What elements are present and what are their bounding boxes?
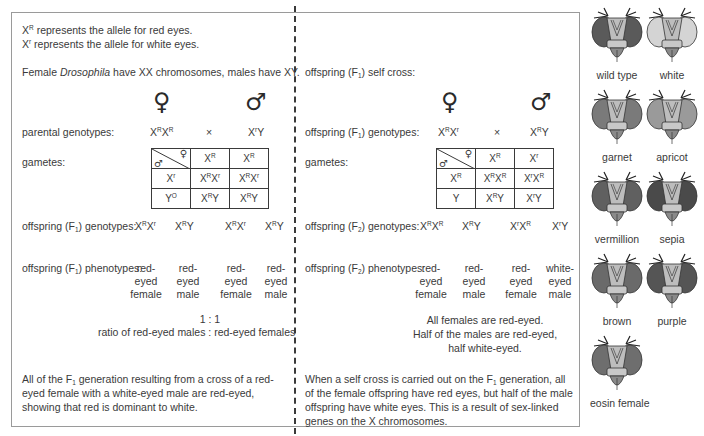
female-gamete: Xr xyxy=(515,149,554,169)
chromosome-note: Female Drosophila have XX chromosomes, m… xyxy=(22,66,300,79)
female-gamete: XR xyxy=(191,149,230,169)
f1-male-genotype: XRY xyxy=(530,126,549,139)
punnett-cell: XRY xyxy=(476,189,515,209)
punnett-square-f1: ♀ ♂ XR XR Xr XRXr XRXr YO XRY XRY xyxy=(151,148,269,209)
f2-summary: When a self cross is carried out on the … xyxy=(305,372,573,428)
fly-purple: purple xyxy=(645,252,699,327)
f2-conclusion-line: half white-eyed. xyxy=(410,342,560,355)
f2-genotypes-label: offspring (F2) genotypes: xyxy=(305,220,419,233)
fly-vermillion: vermillion xyxy=(590,170,644,245)
f2-genotype: XRY xyxy=(462,220,481,233)
fly-label: wild type xyxy=(590,69,644,81)
parental-female-genotype: XRXR xyxy=(150,126,173,139)
fly-eosin-female: eosin female xyxy=(590,334,644,409)
f1-phenotype: red- eyed male xyxy=(258,262,294,301)
fly-label: brown xyxy=(590,315,644,327)
punnett-square-f2: ♀ ♂ XR Xr XR XRXR XrXR Y XRY XrY xyxy=(436,148,554,209)
punnett-cell: XRY xyxy=(230,189,269,209)
fly-brown: brown xyxy=(590,252,644,327)
punnett-cell: XRXr xyxy=(191,169,230,189)
f1-genotype: XRXr xyxy=(135,220,156,233)
female-gamete: XR xyxy=(230,149,269,169)
f1-phenotype: red- eyed female xyxy=(128,262,164,301)
punnett-header-cell: ♀ ♂ xyxy=(152,149,191,169)
fly-sepia: sepia xyxy=(645,170,699,245)
male-gamete: XR xyxy=(437,169,476,189)
female-symbol: ♀ xyxy=(180,149,187,160)
punnett-header-cell: ♀ ♂ xyxy=(437,149,476,169)
allele-red-definition: XR represents the allele for red eyes. xyxy=(22,24,192,37)
f1-genotype: XRXr xyxy=(225,220,246,233)
f1-female-genotype: XRXr xyxy=(438,126,459,139)
fly-label: apricot xyxy=(645,151,699,163)
f2-genotype: XRXR xyxy=(420,220,443,233)
f2-phenotype: red- eyed female xyxy=(413,262,449,301)
punnett-cell: XrXR xyxy=(515,169,554,189)
gametes-label: gametes: xyxy=(22,156,65,169)
male-symbol: ♂ xyxy=(530,90,552,114)
male-symbol: ♂ xyxy=(439,158,448,169)
f1-genotypes-label: offspring (F1) genotypes: xyxy=(305,126,419,139)
fly-wild-type: wild type xyxy=(590,6,644,81)
fly-head-icon xyxy=(590,334,644,394)
fly-label: purple xyxy=(645,315,699,327)
f1-ratio: 1 : 1 xyxy=(180,313,240,326)
fly-head-icon xyxy=(590,6,644,66)
fly-head-icon xyxy=(645,170,699,230)
fly-head-icon xyxy=(645,252,699,312)
fly-label: eosin female xyxy=(590,397,644,409)
male-gamete: Y xyxy=(437,189,476,209)
cross-symbol: × xyxy=(494,126,500,139)
f1-phenotypes-label: offspring (F1) phenotypes: xyxy=(22,262,142,275)
fly-head-icon xyxy=(590,88,644,148)
male-gamete: YO xyxy=(152,189,191,209)
parental-genotypes-label: parental genotypes: xyxy=(22,126,114,139)
female-symbol: ♀ xyxy=(153,90,171,114)
fly-apricot: apricot xyxy=(645,88,699,163)
f2-phenotypes-label: offspring (F2) phenotypes: xyxy=(305,262,425,275)
male-symbol: ♂ xyxy=(154,158,163,169)
f1-genotypes-label: offspring (F1) genotypes: xyxy=(22,220,136,233)
f2-phenotype: red- eyed female xyxy=(503,262,539,301)
cross-symbol: × xyxy=(206,126,212,139)
punnett-cell: XRY xyxy=(191,189,230,209)
fly-label: vermillion xyxy=(590,233,644,245)
punnett-cell: XRXR xyxy=(476,169,515,189)
male-symbol: ♂ xyxy=(245,90,267,114)
f2-phenotype: white- eyed male xyxy=(541,262,579,301)
f2-conclusion-line: All females are red-eyed. xyxy=(410,314,560,327)
fly-white: white xyxy=(645,6,699,81)
fly-garnet: garnet xyxy=(590,88,644,163)
female-gamete: XR xyxy=(476,149,515,169)
allele-white-definition: Xr represents the allele for white eyes. xyxy=(22,38,199,51)
fly-head-icon xyxy=(645,88,699,148)
f2-genotype: XrXR xyxy=(510,220,531,233)
female-symbol: ♀ xyxy=(441,90,459,114)
fly-head-icon xyxy=(590,252,644,312)
fly-head-icon xyxy=(645,6,699,66)
f1-genotype: XRY xyxy=(175,220,194,233)
punnett-cell: XrY xyxy=(515,189,554,209)
parental-male-genotype: XrY xyxy=(248,126,264,139)
fly-label: white xyxy=(645,69,699,81)
f1-genotype: XRY xyxy=(265,220,284,233)
f1-phenotype: red- eyed female xyxy=(218,262,254,301)
f1-ratio-description: ratio of red-eyed males : red-eyed femal… xyxy=(98,326,295,339)
fly-head-icon xyxy=(590,170,644,230)
gametes-label: gametes: xyxy=(305,156,348,169)
punnett-cell: XRXr xyxy=(230,169,269,189)
female-symbol: ♀ xyxy=(465,149,472,160)
male-gamete: Xr xyxy=(152,169,191,189)
f2-conclusion-line: Half of the males are red-eyed, xyxy=(410,328,560,341)
fly-label: garnet xyxy=(590,151,644,163)
self-cross-label: offspring (F1) self cross: xyxy=(305,66,415,79)
f1-summary: All of the F1 generation resulting from … xyxy=(22,372,284,414)
f2-phenotype: red- eyed male xyxy=(456,262,492,301)
f2-genotype: XrY xyxy=(552,220,568,233)
fly-label: sepia xyxy=(645,233,699,245)
f1-phenotype: red- eyed male xyxy=(170,262,206,301)
